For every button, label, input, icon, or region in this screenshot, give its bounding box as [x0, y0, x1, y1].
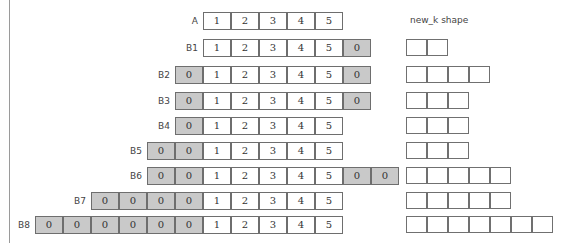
shape-box — [427, 117, 448, 134]
value-cell: 3 — [259, 216, 287, 234]
shape-box — [490, 216, 511, 233]
padding-cell: 0 — [343, 92, 371, 110]
shape-box — [448, 167, 469, 184]
value-cell: 2 — [231, 92, 259, 110]
shape-box — [427, 66, 448, 83]
value-cell: 4 — [287, 167, 315, 185]
padding-cell: 0 — [35, 216, 63, 234]
padding-cell: 0 — [175, 216, 203, 234]
value-cell: 5 — [315, 12, 343, 30]
value-cell: 1 — [203, 117, 231, 135]
shape-box — [427, 216, 448, 233]
value-cell: 5 — [315, 117, 343, 135]
value-cell: 5 — [315, 39, 343, 57]
value-cell: 5 — [315, 66, 343, 84]
shape-box — [448, 66, 469, 83]
row-label: B3 — [140, 92, 170, 110]
padding-cell: 0 — [175, 66, 203, 84]
row-label: B1 — [168, 39, 198, 57]
shape-box — [490, 192, 511, 209]
shape-box — [469, 167, 490, 184]
padding-cell: 0 — [147, 216, 175, 234]
value-cell: 4 — [287, 66, 315, 84]
shape-box — [490, 167, 511, 184]
value-cell: 1 — [203, 39, 231, 57]
value-cell: 3 — [259, 39, 287, 57]
shape-box — [427, 192, 448, 209]
value-cell: 3 — [259, 92, 287, 110]
left-divider-line — [9, 0, 10, 243]
value-cell: 1 — [203, 167, 231, 185]
shape-box — [448, 92, 469, 109]
shape-box — [406, 167, 427, 184]
shape-box — [448, 117, 469, 134]
value-cell: 1 — [203, 12, 231, 30]
padding-cell: 0 — [175, 142, 203, 160]
padding-cell: 0 — [343, 39, 371, 57]
value-cell: 4 — [287, 39, 315, 57]
row-label: B4 — [140, 117, 170, 135]
value-cell: 3 — [259, 167, 287, 185]
shape-box — [469, 192, 490, 209]
padding-cell: 0 — [175, 167, 203, 185]
padding-cell: 0 — [343, 167, 371, 185]
padding-cell: 0 — [91, 192, 119, 210]
padding-cell: 0 — [119, 216, 147, 234]
value-cell: 5 — [315, 92, 343, 110]
value-cell: 2 — [231, 117, 259, 135]
row-label: B7 — [56, 192, 86, 210]
shape-box — [448, 192, 469, 209]
shape-box — [469, 216, 490, 233]
value-cell: 3 — [259, 192, 287, 210]
padding-cell: 0 — [147, 192, 175, 210]
row-label: B6 — [112, 167, 142, 185]
value-cell: 4 — [287, 192, 315, 210]
padding-cell: 0 — [63, 216, 91, 234]
shape-box — [406, 39, 427, 56]
value-cell: 4 — [287, 92, 315, 110]
value-cell: 4 — [287, 12, 315, 30]
value-cell: 3 — [259, 12, 287, 30]
value-cell: 3 — [259, 66, 287, 84]
shape-box — [406, 92, 427, 109]
shape-box — [427, 167, 448, 184]
shape-box — [427, 39, 448, 56]
padding-cell: 0 — [119, 192, 147, 210]
shape-box — [427, 92, 448, 109]
value-cell: 2 — [231, 142, 259, 160]
row-label: B2 — [140, 66, 170, 84]
value-cell: 1 — [203, 66, 231, 84]
shape-box — [427, 142, 448, 159]
value-cell: 2 — [231, 66, 259, 84]
value-cell: 3 — [259, 142, 287, 160]
shape-box — [406, 66, 427, 83]
value-cell: 5 — [315, 216, 343, 234]
row-label: A — [168, 12, 198, 30]
shape-box — [448, 216, 469, 233]
value-cell: 2 — [231, 167, 259, 185]
padding-cell: 0 — [147, 142, 175, 160]
shape-box — [406, 142, 427, 159]
value-cell: 1 — [203, 92, 231, 110]
value-cell: 2 — [231, 39, 259, 57]
value-cell: 2 — [231, 216, 259, 234]
shape-box — [448, 142, 469, 159]
padding-cell: 0 — [147, 167, 175, 185]
padding-cell: 0 — [175, 92, 203, 110]
shape-box — [406, 117, 427, 134]
value-cell: 2 — [231, 192, 259, 210]
padding-cell: 0 — [371, 167, 399, 185]
value-cell: 1 — [203, 192, 231, 210]
value-cell: 2 — [231, 12, 259, 30]
padding-cell: 0 — [175, 117, 203, 135]
shape-box — [532, 216, 553, 233]
shape-box — [406, 216, 427, 233]
padding-cell: 0 — [91, 216, 119, 234]
value-cell: 1 — [203, 216, 231, 234]
padding-cell: 0 — [175, 192, 203, 210]
value-cell: 4 — [287, 142, 315, 160]
shape-column-header: new_k shape — [410, 15, 468, 25]
row-label: B8 — [0, 216, 30, 234]
shape-box — [469, 66, 490, 83]
value-cell: 5 — [315, 167, 343, 185]
